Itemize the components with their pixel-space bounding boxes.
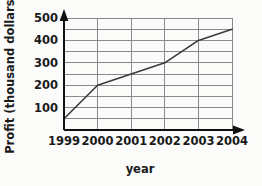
x-axis-title: year: [126, 162, 155, 176]
y-tick-label-200: 200: [34, 78, 58, 92]
x-tick-label-2000: 2000: [82, 134, 114, 148]
x-tick-label-1999: 1999: [48, 134, 80, 148]
x-axis-tick-labels: 1999 2000 2001 2002 2003 2004: [48, 134, 248, 148]
x-tick-label-2004: 2004: [216, 134, 248, 148]
x-tick-label-2001: 2001: [115, 134, 147, 148]
y-tick-label-300: 300: [34, 56, 58, 70]
chart-canvas: 500 400 300 200 100 1999 2000 2001 2002 …: [0, 0, 262, 186]
x-tick-label-2003: 2003: [182, 134, 214, 148]
y-tick-label-500: 500: [34, 11, 58, 25]
line-chart-figure: 500 400 300 200 100 1999 2000 2001 2002 …: [0, 0, 262, 186]
y-tick-label-100: 100: [34, 101, 58, 115]
x-tick-label-2002: 2002: [149, 134, 181, 148]
y-axis-title: Profit (thousand dollars): [3, 0, 17, 154]
y-tick-label-400: 400: [34, 33, 58, 47]
